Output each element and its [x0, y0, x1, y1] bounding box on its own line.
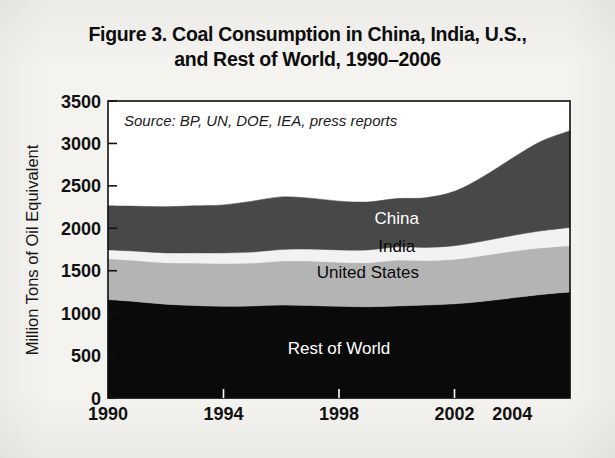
- y-tick-label: 1000: [61, 304, 101, 324]
- x-tick-label: 1998: [319, 404, 359, 424]
- figure-page: Figure 3. Coal Consumption in China, Ind…: [0, 0, 615, 458]
- x-tick-label: 1994: [203, 404, 243, 424]
- y-tick-label: 2000: [61, 219, 101, 239]
- y-tick-label: 1500: [61, 261, 101, 281]
- stacked-area-chart: 0500100015002000250030003500 19901994199…: [0, 0, 615, 458]
- x-tick-label: 1990: [88, 404, 128, 424]
- source-note: Source: BP, UN, DOE, IEA, press reports: [124, 112, 398, 129]
- series-label-united-states: United States: [317, 263, 419, 282]
- x-tick-label: 2004: [492, 404, 532, 424]
- x-tick-label: 2002: [434, 404, 474, 424]
- y-tick-label: 2500: [61, 176, 101, 196]
- y-tick-label: 500: [71, 346, 101, 366]
- series-label-china: China: [375, 209, 420, 228]
- chart-area: 0500100015002000250030003500 19901994199…: [0, 0, 615, 458]
- series-label-rest-of-world: Rest of World: [288, 339, 391, 358]
- y-tick-label: 3500: [61, 92, 101, 112]
- y-axis-title: Million Tons of Oil Equivalent: [23, 144, 41, 355]
- y-tick-label: 3000: [61, 134, 101, 154]
- series-label-india: India: [378, 237, 415, 256]
